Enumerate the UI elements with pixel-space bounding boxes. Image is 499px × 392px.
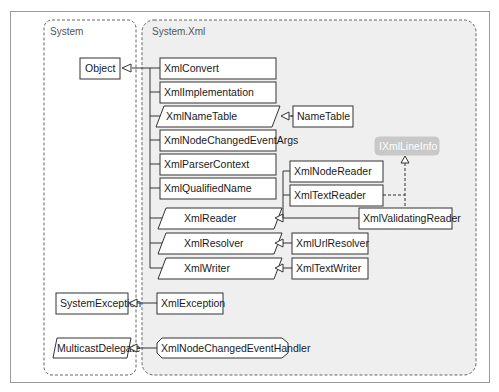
svg-text:XmlReader: XmlReader [184, 212, 237, 224]
svg-text:XmlConvert: XmlConvert [164, 62, 219, 74]
svg-text:XmlWriter: XmlWriter [184, 262, 230, 274]
class-xml-validating-reader[interactable]: XmlValidatingReader [359, 208, 461, 229]
class-hierarchy-diagram: System System.Xml Object XmlConvert XmlI… [0, 0, 499, 392]
class-xml-reader[interactable]: XmlReader [158, 208, 282, 229]
svg-text:XmlNodeChangedEventHandler: XmlNodeChangedEventHandler [161, 342, 311, 354]
svg-text:XmlNameTable: XmlNameTable [166, 110, 237, 122]
svg-text:XmlTextWriter: XmlTextWriter [296, 262, 362, 274]
class-xml-name-table[interactable]: XmlNameTable [156, 106, 280, 127]
class-name-table[interactable]: NameTable [293, 106, 353, 127]
class-xml-node-reader[interactable]: XmlNodeReader [290, 161, 383, 182]
svg-text:XmlNodeReader: XmlNodeReader [294, 165, 372, 177]
svg-text:XmlTextReader: XmlTextReader [294, 189, 366, 201]
svg-text:XmlUrlResolver: XmlUrlResolver [296, 237, 369, 249]
class-xml-qualified-name[interactable]: XmlQualifiedName [160, 178, 276, 199]
interface-ixml-line-info[interactable]: IXmlLineInfo [375, 137, 439, 155]
svg-text:XmlNodeChangedEventArgs: XmlNodeChangedEventArgs [164, 134, 298, 146]
class-xml-implementation[interactable]: XmlImplementation [160, 82, 276, 103]
class-label: Object [85, 62, 115, 74]
svg-text:IXmlLineInfo: IXmlLineInfo [379, 140, 438, 152]
class-xml-resolver[interactable]: XmlResolver [158, 233, 282, 254]
class-xml-parser-context[interactable]: XmlParserContext [160, 154, 276, 175]
class-object[interactable]: Object [80, 58, 120, 79]
triangle-arrow-icon [122, 64, 131, 72]
class-xml-text-reader[interactable]: XmlTextReader [290, 185, 383, 206]
svg-text:XmlParserContext: XmlParserContext [164, 158, 249, 170]
class-xml-convert[interactable]: XmlConvert [160, 58, 276, 79]
class-xml-text-writer[interactable]: XmlTextWriter [292, 258, 368, 279]
class-xml-exception[interactable]: XmlException [157, 293, 225, 314]
svg-text:XmlQualifiedName: XmlQualifiedName [164, 182, 252, 194]
svg-text:XmlException: XmlException [161, 297, 225, 309]
class-system-exception[interactable]: SystemException [56, 293, 141, 314]
svg-text:XmlValidatingReader: XmlValidatingReader [363, 212, 461, 224]
svg-text:XmlImplementation: XmlImplementation [164, 86, 254, 98]
class-xml-url-resolver[interactable]: XmlUrlResolver [292, 233, 369, 254]
class-xml-writer[interactable]: XmlWriter [158, 258, 282, 279]
svg-text:XmlResolver: XmlResolver [184, 237, 244, 249]
class-multicast-delegate[interactable]: MulticastDelegate [53, 338, 141, 358]
namespace-label-system-xml: System.Xml [152, 26, 205, 37]
svg-text:NameTable: NameTable [297, 110, 350, 122]
namespace-label-system: System [50, 26, 83, 37]
